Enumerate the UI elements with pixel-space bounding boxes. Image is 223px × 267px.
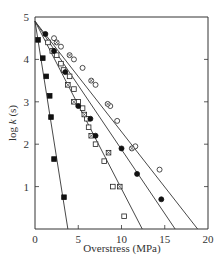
data-point-square-filled — [47, 94, 52, 99]
data-point-square-filled — [40, 56, 45, 61]
data-point-circle-filled — [43, 31, 48, 36]
x-tick-label: 0 — [32, 233, 38, 245]
data-point-square-open — [93, 142, 98, 147]
data-point-circle-open — [115, 118, 120, 123]
data-point-square-open — [102, 159, 107, 164]
y-axis-label-unit: (s) — [6, 105, 19, 120]
data-point-circle-filled — [63, 70, 68, 75]
data-point-circle-filled — [88, 116, 93, 121]
data-point-square-filled — [44, 74, 49, 79]
data-point-square-open — [111, 184, 116, 189]
x-axis-label: Overstress (MPa) — [83, 242, 161, 255]
x-tick-label: 15 — [159, 233, 171, 245]
y-tick-label: 4 — [24, 53, 30, 65]
fit-line — [35, 21, 198, 229]
data-point-square-open — [86, 125, 91, 130]
y-tick-label: 3 — [24, 96, 30, 108]
data-point-circle-filled — [76, 104, 81, 109]
y-axis-label-prefix: log — [6, 124, 18, 141]
data-point-circle-filled — [119, 146, 124, 151]
chart: 05101520 12345 Overstress (MPa) log k (s… — [0, 0, 223, 267]
data-point-square-open — [72, 87, 77, 92]
data-point-circle-open — [93, 82, 98, 87]
data-point-square-open — [46, 40, 51, 45]
fit-lines — [35, 21, 198, 229]
data-point-circle-open — [157, 167, 162, 172]
data-point-circle-open — [58, 44, 63, 49]
y-tick-label: 5 — [24, 11, 30, 23]
y-axis-label: log k (s) — [6, 105, 19, 141]
x-tick-label: 5 — [76, 233, 82, 245]
y-tick-label: 1 — [24, 181, 30, 193]
data-point-circle-open — [71, 57, 76, 62]
x-tick-label: 20 — [203, 233, 215, 245]
data-point-circle-filled — [52, 48, 57, 53]
data-point-square-filled — [62, 195, 67, 200]
data-point-square-open — [67, 74, 72, 79]
data-point-square-open — [122, 214, 127, 219]
data-point-square-open — [59, 61, 64, 66]
y-tick-label: 2 — [24, 138, 30, 150]
data-point-circle-filled — [159, 197, 164, 202]
data-point-square-filled — [52, 157, 57, 162]
data-point-circle-open — [80, 65, 85, 70]
data-point-square-filled — [36, 38, 41, 43]
data-point-square-filled — [49, 115, 54, 120]
data-point-circle-filled — [135, 171, 140, 176]
data-point-circle-filled — [93, 133, 98, 138]
